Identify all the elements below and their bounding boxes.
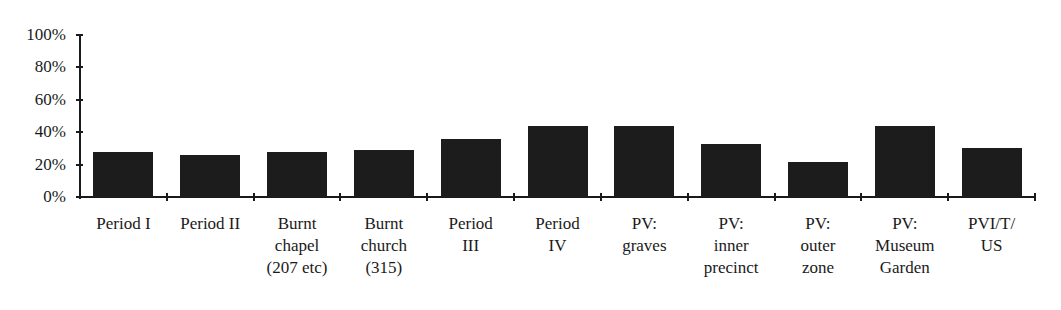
x-tick (947, 193, 949, 201)
x-tick (339, 193, 341, 201)
x-tick (860, 193, 862, 201)
y-tick-label: 80% (0, 58, 66, 76)
x-tick (513, 193, 515, 201)
x-tick-label: Period II (167, 213, 253, 235)
y-tick (76, 164, 83, 166)
bar (93, 152, 153, 197)
x-tick-label: PV: Museum Garden (862, 213, 948, 279)
y-tick (76, 99, 83, 101)
y-tick (76, 196, 83, 198)
x-tick (253, 193, 255, 201)
y-tick-label: 60% (0, 91, 66, 109)
y-tick-label: 40% (0, 123, 66, 141)
x-tick-label: Period I (80, 213, 166, 235)
y-tick-label: 100% (0, 26, 66, 44)
x-tick (774, 193, 776, 201)
bar (354, 150, 414, 197)
y-axis (79, 35, 81, 199)
x-tick-label: Burnt church (315) (341, 213, 427, 279)
bar-chart: 0%20%40%60%80%100% Period IPeriod IIBurn… (0, 0, 1061, 310)
y-tick-label: 0% (0, 188, 66, 206)
x-tick-label: Burnt chapel (207 etc) (254, 213, 340, 279)
x-tick (600, 193, 602, 201)
y-tick (76, 131, 83, 133)
x-tick (1034, 193, 1036, 201)
bar (701, 144, 761, 197)
x-tick (426, 193, 428, 201)
x-tick (166, 193, 168, 201)
x-tick-label: PV: outer zone (775, 213, 861, 279)
bar (788, 162, 848, 197)
bar (528, 126, 588, 197)
bar (180, 155, 240, 197)
y-tick (76, 66, 83, 68)
x-tick-label: Period III (428, 213, 514, 257)
bar (875, 126, 935, 197)
y-tick (76, 34, 83, 36)
x-tick (687, 193, 689, 201)
x-tick-label: PV: inner precinct (688, 213, 774, 279)
y-tick-label: 20% (0, 156, 66, 174)
bar (614, 126, 674, 197)
x-tick-label: PV: graves (601, 213, 687, 257)
bar (441, 139, 501, 197)
x-tick-label: PVI/T/ US (949, 213, 1035, 257)
x-tick-label: Period IV (515, 213, 601, 257)
bar (267, 152, 327, 197)
bar (962, 148, 1022, 197)
